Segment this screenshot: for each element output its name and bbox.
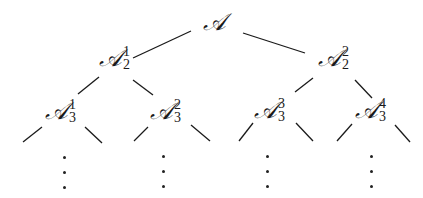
script-a-symbol: 𝒜	[99, 46, 122, 70]
edge-a12-right	[133, 80, 153, 95]
continuation-dots-3	[266, 155, 270, 198]
node-a-2-3: 𝒜23	[150, 98, 181, 124]
edge-a12-left	[78, 77, 99, 94]
subscript: 3	[379, 110, 386, 123]
edge-a23-left	[134, 127, 148, 141]
node-root: 𝒜	[203, 10, 226, 34]
dot	[266, 155, 269, 158]
edge-root-left	[133, 31, 191, 58]
subscript: 3	[69, 111, 76, 124]
node-a-3-3: 𝒜33	[254, 97, 285, 123]
script-a-symbol: 𝒜	[318, 46, 341, 70]
node-a-1-2: 𝒜12	[99, 45, 130, 71]
edge-root-right	[243, 33, 305, 53]
edge-a33-left	[239, 123, 253, 141]
dot	[266, 185, 269, 188]
dot	[162, 170, 165, 173]
dot	[266, 170, 269, 173]
dot	[63, 186, 66, 189]
subscript: 2	[123, 58, 130, 71]
edge-a13-left	[23, 127, 42, 142]
dot	[63, 171, 66, 174]
node-a-2-2: 𝒜22	[318, 45, 349, 71]
edge-a43-right	[395, 125, 410, 142]
subscript: 3	[278, 110, 285, 123]
edge-a13-right	[85, 127, 102, 143]
edge-a33-right	[296, 123, 313, 141]
continuation-dots-2	[162, 155, 166, 198]
node-a-1-3: 𝒜13	[45, 98, 76, 124]
continuation-dots-4	[370, 155, 374, 198]
script-a-symbol: 𝒜	[254, 98, 277, 122]
dot	[63, 156, 66, 159]
dot	[162, 155, 165, 158]
edge-a23-right	[191, 125, 210, 141]
script-a-symbol: 𝒜	[203, 10, 226, 34]
subscript: 3	[174, 111, 181, 124]
node-a-4-3: 𝒜43	[355, 97, 386, 123]
edge-a22-left	[295, 78, 313, 92]
script-a-symbol: 𝒜	[150, 99, 173, 123]
script-a-symbol: 𝒜	[355, 98, 378, 122]
dot	[370, 170, 373, 173]
dot	[370, 155, 373, 158]
edge-a43-left	[337, 124, 352, 141]
dot	[162, 185, 165, 188]
continuation-dots-1	[63, 156, 67, 198]
dot	[370, 185, 373, 188]
subscript: 2	[342, 58, 349, 71]
script-a-symbol: 𝒜	[45, 99, 68, 123]
